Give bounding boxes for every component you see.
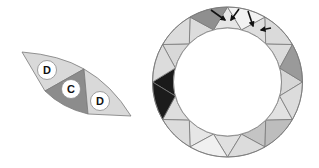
ring-inward-triangle [163, 17, 190, 44]
ring-inward-triangle [265, 17, 292, 44]
ring-fragment: DCD [22, 52, 131, 116]
ring-inward-triangle [265, 120, 292, 147]
ring-inward-triangle [163, 120, 190, 147]
diagram-canvas: DCD [0, 0, 319, 168]
marker-label: D [43, 64, 51, 76]
ring-inner-hole [174, 28, 282, 136]
segmented-ring [153, 7, 303, 157]
marker-d: D [38, 61, 57, 80]
fragment-right-segment [84, 69, 131, 116]
marker-label: D [96, 95, 104, 107]
marker-d: D [91, 92, 110, 111]
marker-c: C [62, 80, 81, 99]
marker-label: C [67, 83, 75, 95]
